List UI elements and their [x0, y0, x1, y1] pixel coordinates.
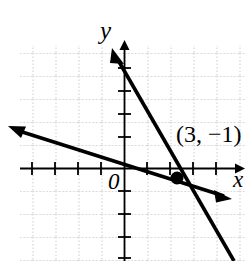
origin-label: 0	[108, 170, 120, 193]
background-grid	[20, 45, 245, 261]
intersection-point-label: (3, −1)	[176, 122, 242, 146]
y-axis-label: y	[100, 18, 111, 43]
graph-figure: y x 0 (3, −1)	[0, 0, 249, 261]
intersection-point-marker	[171, 172, 184, 185]
x-axis-label: x	[233, 168, 243, 191]
